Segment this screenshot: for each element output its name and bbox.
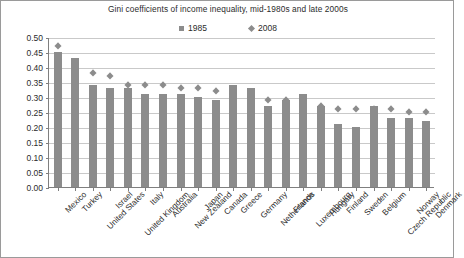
bar-1985 [299,94,307,187]
bar-group [207,37,225,187]
marker-2008 [265,97,271,103]
marker-2008 [423,109,429,115]
bar-group [365,37,383,187]
bar-group [49,37,67,187]
bar-group [102,37,120,187]
bar-1985 [387,118,395,187]
y-tick-label: 0.00 [26,183,43,193]
bar-1985 [71,58,79,187]
bar-1985 [54,52,62,187]
marker-2008 [160,82,166,88]
bar-1985 [317,106,325,187]
chart-legend: 1985 2008 [1,23,455,33]
bar-group [400,37,418,187]
marker-2008 [90,70,96,76]
legend-square-marker [179,26,184,31]
y-tick-label: 0.25 [26,108,43,118]
bar-1985 [194,97,202,187]
bar-1985 [159,94,167,187]
legend-label-2008: 2008 [258,23,277,33]
bar-1985 [89,85,97,187]
marker-2008 [212,88,218,94]
bar-group [312,37,330,187]
x-tick-label: Italy [148,190,165,207]
chart-title: Gini coefficients of income inequality, … [1,4,455,14]
bar-1985 [141,94,149,187]
bar-1985 [370,106,378,187]
bar-group [277,37,295,187]
x-axis-labels: MexicoTurkeyUnited StatesIsraelUnited Ki… [48,190,434,256]
y-axis-labels: 0.000.050.100.150.200.250.300.350.400.45… [1,1,46,201]
y-tick-label: 0.20 [26,123,43,133]
y-tick-label: 0.45 [26,48,43,58]
bar-group [137,37,155,187]
bar-group [67,37,85,187]
bar-1985 [229,85,237,187]
bar-1985 [212,100,220,187]
marker-2008 [142,82,148,88]
plot-area [48,38,434,188]
marker-2008 [405,109,411,115]
bar-1985 [282,100,290,187]
y-tick-label: 0.15 [26,138,43,148]
bar-1985 [177,94,185,187]
bar-1985 [405,118,413,187]
bar-1985 [247,88,255,187]
bar-1985 [124,88,132,187]
y-tick-label: 0.50 [26,33,43,43]
bar-group [382,37,400,187]
bar-group [224,37,242,187]
bar-1985 [422,121,430,187]
y-tick-label: 0.30 [26,93,43,103]
y-tick-label: 0.40 [26,63,43,73]
bar-group [189,37,207,187]
marker-2008 [195,85,201,91]
legend-item-1985: 1985 [179,23,207,33]
marker-2008 [335,106,341,112]
marker-2008 [55,43,61,49]
y-tick-label: 0.05 [26,168,43,178]
bar-1985 [264,106,272,187]
legend-item-2008: 2008 [249,23,277,33]
marker-2008 [107,73,113,79]
marker-2008 [353,106,359,112]
bar-1985 [106,88,114,187]
y-tick [46,188,49,189]
legend-diamond-marker [248,24,255,31]
bar-group [330,37,348,187]
y-tick-label: 0.35 [26,78,43,88]
bar-group [172,37,190,187]
legend-label-1985: 1985 [188,23,207,33]
y-tick-label: 0.10 [26,153,43,163]
bar-group [154,37,172,187]
bar-group [84,37,102,187]
bar-group [295,37,313,187]
bar-group [347,37,365,187]
marker-2008 [388,106,394,112]
bar-group [260,37,278,187]
marker-2008 [177,85,183,91]
bar-group [119,37,137,187]
bar-group [417,37,435,187]
bar-1985 [334,124,342,187]
x-tick-label: France [291,190,315,214]
bar-1985 [352,127,360,187]
bar-group [242,37,260,187]
